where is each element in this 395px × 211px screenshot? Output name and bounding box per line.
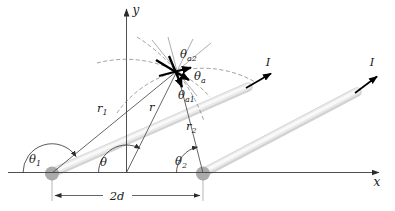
theta-label: θ [100, 155, 107, 169]
current-arrow-wire2 [355, 77, 377, 94]
current-arrow-wire1 [246, 74, 271, 89]
current1-label: I [265, 55, 271, 69]
dim-2d-label: 2d [109, 189, 125, 203]
y-axis-label: y [132, 3, 140, 17]
dimension-2d: 2d [52, 179, 203, 203]
field-line-arcs [97, 37, 255, 121]
r2-label: r2 [186, 119, 197, 135]
rod-2 [203, 91, 357, 173]
figure: x y r1 r r2 θ1 θ θ2 2d [0, 0, 395, 211]
theta2-label: θ2 [175, 154, 187, 170]
theta1-label: θ1 [29, 152, 41, 168]
theta-a-label: θa [194, 69, 206, 85]
theta-a2-label: θa2 [180, 47, 197, 63]
x-axis-label: x [374, 175, 381, 189]
current2-label: I [369, 55, 375, 69]
r1-label: r1 [97, 101, 108, 117]
r-label: r [149, 100, 156, 114]
physics-diagram-canvas: x y r1 r r2 θ1 θ θ2 2d [0, 0, 395, 211]
wire2-base-dot [196, 167, 210, 181]
